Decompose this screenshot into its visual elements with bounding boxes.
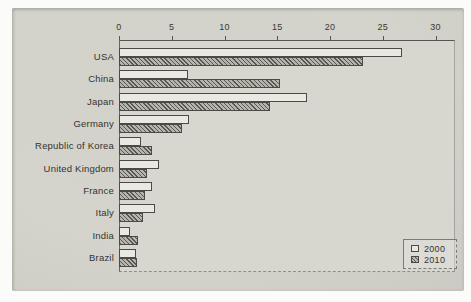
bar-2010	[119, 169, 147, 178]
bar-2000	[119, 182, 152, 191]
x-tick-mark	[330, 36, 331, 40]
legend-swatch-2010-icon	[411, 256, 419, 263]
scanned-page: 2000 2010 051015202530USAChinaJapanGerma…	[0, 0, 471, 302]
legend-label-2010: 2010	[424, 255, 445, 265]
x-tick-label: 0	[116, 22, 121, 32]
bar-2000	[119, 70, 188, 79]
bar-2000	[119, 204, 155, 213]
x-tick-label: 20	[325, 22, 336, 32]
legend-label-2000: 2000	[424, 244, 445, 254]
x-tick-label: 10	[219, 22, 230, 32]
bar-2010	[119, 124, 182, 133]
category-label: Germany	[12, 118, 114, 130]
x-tick-mark	[383, 36, 384, 40]
x-tick-label: 25	[377, 22, 388, 32]
x-tick-mark	[172, 36, 173, 40]
legend-item-2010: 2010	[411, 254, 456, 265]
bar-2000	[119, 160, 159, 169]
bar-2010	[119, 57, 363, 66]
category-label: Japan	[12, 96, 114, 108]
category-label: United Kingdom	[12, 163, 114, 175]
bar-2010	[119, 102, 270, 111]
category-label: France	[12, 185, 114, 197]
x-tick-label: 15	[272, 22, 283, 32]
category-label: India	[12, 230, 114, 242]
bar-2010	[119, 213, 143, 222]
bar-2010	[119, 236, 138, 245]
x-tick-mark	[436, 36, 437, 40]
x-tick-mark	[225, 36, 226, 40]
category-label: China	[12, 73, 114, 85]
bar-2000	[119, 227, 130, 236]
category-label: Brazil	[12, 252, 114, 264]
bar-2010	[119, 258, 137, 267]
x-tick-label: 30	[430, 22, 441, 32]
x-tick-label: 5	[169, 22, 174, 32]
legend: 2000 2010	[403, 239, 457, 269]
bar-2000	[119, 115, 189, 124]
figure-scan: 2000 2010 051015202530USAChinaJapanGerma…	[12, 8, 464, 291]
bar-2010	[119, 79, 280, 88]
x-tick-mark	[277, 36, 278, 40]
bar-2000	[119, 48, 402, 57]
bar-2010	[119, 191, 145, 200]
category-label: USA	[12, 51, 114, 63]
bar-2000	[119, 93, 307, 102]
legend-swatch-2000-icon	[411, 245, 419, 252]
category-label: Republic of Korea	[12, 140, 114, 152]
x-tick-mark	[119, 36, 120, 40]
legend-item-2000: 2000	[411, 243, 456, 254]
bar-2000	[119, 137, 141, 146]
category-label: Italy	[12, 207, 114, 219]
bar-2010	[119, 146, 152, 155]
bar-2000	[119, 249, 136, 258]
